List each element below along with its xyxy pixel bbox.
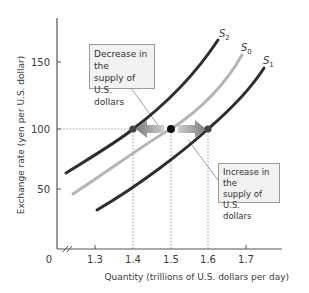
decrease-supply-callout: Decrease in the supply of U.S. dollars [89,44,155,89]
y-tick-100: 100 [31,124,50,135]
origin-label: 0 [46,254,52,265]
decrease-callout-line-3: dollars [94,96,150,108]
x-tick-1.3: 1.3 [87,254,103,265]
x-tick-1.7: 1.7 [238,254,254,265]
x-tick-1.4: 1.4 [125,254,141,265]
increase-leader-line [188,140,218,180]
x-tick-1.6: 1.6 [200,254,216,265]
y-tick-150: 150 [31,57,50,68]
equilibrium-point-s1 [204,125,211,132]
increase-callout-line-1: Increase in the [223,167,275,189]
equilibrium-point-s0 [167,125,175,133]
y-tick-50: 50 [37,184,50,195]
x-tick-1.5: 1.5 [163,254,179,265]
increase-supply-callout: Increase in the supply of U.S. dollars [218,163,280,203]
x-axis-label: Quantity (trillions of U.S. dollars per … [104,272,289,282]
s2-label: S2 [219,28,230,42]
increase-callout-line-2: supply of U.S. [223,189,275,211]
decrease-callout-line-2: supply of U.S. [94,72,150,96]
decrease-callout-line-1: Decrease in the [94,48,150,72]
y-axis-label: Exchange rate (yen per U.S. dollar) [16,56,26,215]
equilibrium-point-s2 [129,125,136,132]
increase-callout-line-3: dollars [223,211,275,222]
